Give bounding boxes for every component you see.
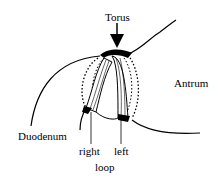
label-torus: Torus — [105, 12, 130, 23]
antrum-upper-wall — [128, 20, 176, 54]
label-duodenum: Duodenum — [18, 131, 67, 142]
label-right: right — [79, 146, 100, 157]
label-antrum: Antrum — [174, 78, 208, 89]
label-loop: loop — [95, 162, 115, 173]
dotted-contour-right — [128, 55, 138, 118]
label-left: left — [114, 146, 129, 157]
pylorus-diagram: Torus Antrum Duodenum right left loop — [0, 0, 218, 186]
antrum-lower-wall — [132, 120, 200, 133]
anatomy-drawing — [0, 0, 218, 186]
torus-band — [100, 49, 132, 58]
left-loop — [112, 56, 128, 118]
